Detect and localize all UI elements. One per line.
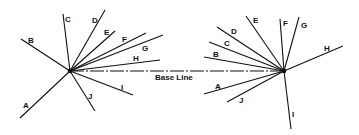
base-line-label: Base Line [155,73,193,82]
left-ray-group: ABCDEFGHIJ [20,10,163,118]
left-ray-a [20,71,70,118]
right-ray-label-h: H [324,44,330,53]
left-pivot-point [68,69,73,74]
diagram-svg: Base Line ABCDEFGHIJ ABCDEFGHIJ [0,0,359,135]
right-ray-label-e: E [253,16,259,25]
right-ray-label-i: I [292,110,294,119]
bearing-diagram: Base Line ABCDEFGHIJ ABCDEFGHIJ [0,0,359,135]
right-ray-label-c: C [224,39,230,48]
left-ray-label-h: H [133,54,139,63]
left-ray-label-c: C [65,15,71,24]
right-ray-label-j: J [239,96,243,105]
left-ray-i [70,71,133,95]
right-ray-h [284,46,343,71]
left-ray-label-d: D [92,16,98,25]
right-ray-j [227,71,284,102]
right-ray-label-b: B [213,50,219,59]
left-ray-label-i: I [121,83,123,92]
left-ray-label-f: F [122,35,127,44]
left-ray-j [70,71,95,111]
right-ray-label-f: F [283,19,288,28]
left-ray-label-b: B [28,36,34,45]
right-ray-group: ABCDEFGHIJ [204,16,343,129]
left-ray-label-g: G [142,44,148,53]
left-ray-e [70,31,115,71]
right-ray-label-a: A [215,82,221,91]
left-ray-label-a: A [23,101,29,110]
right-pivot-point [282,69,287,74]
left-ray-label-j: J [88,92,92,101]
right-ray-b [204,57,284,71]
right-ray-e [246,16,284,71]
right-ray-i [284,71,291,129]
right-ray-label-g: G [301,21,307,30]
right-ray-label-d: D [231,27,237,36]
left-ray-label-e: E [104,28,110,37]
